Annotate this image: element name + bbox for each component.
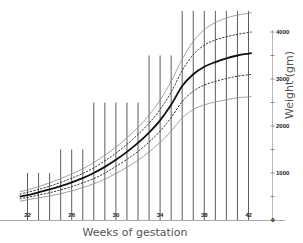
x-tick-label: 30 bbox=[113, 212, 120, 218]
curve-upper-dashed bbox=[20, 32, 252, 194]
x-axis-title: Weeks of gestation bbox=[82, 226, 187, 239]
x-tick-label: 26 bbox=[68, 212, 75, 218]
y-tick-label: 0 bbox=[271, 217, 275, 223]
y-tick-label: 1000 bbox=[276, 170, 290, 176]
percentile-curves bbox=[20, 13, 252, 201]
curve-median bbox=[20, 53, 252, 196]
x-tick-label: 34 bbox=[157, 212, 164, 218]
y-axis-title: Weight (gm) bbox=[283, 51, 296, 119]
x-tick-label: 38 bbox=[201, 212, 208, 218]
week-grid-lines bbox=[28, 11, 249, 220]
y-tick-label: 4000 bbox=[276, 29, 290, 35]
y-tick-label: 2000 bbox=[276, 123, 290, 129]
curve-lower-outer bbox=[20, 96, 252, 201]
x-tick-label: 42 bbox=[245, 212, 252, 218]
x-tick-label: 22 bbox=[24, 212, 31, 218]
growth-chart: 01000200030004000 222630343842 Weeks of … bbox=[0, 0, 303, 243]
